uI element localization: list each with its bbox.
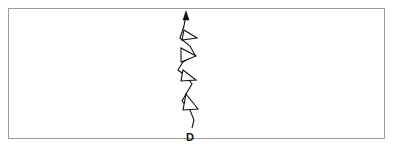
- figure-root: D: [0, 0, 395, 149]
- front-diagram-svg: D: [0, 0, 395, 149]
- front-barb-triangle-3: [181, 70, 196, 81]
- front-line-group: [178, 11, 198, 128]
- front-barb-triangle-1: [182, 30, 197, 40]
- front-barb-triangle-2: [181, 48, 196, 62]
- arrow-head-icon: [183, 11, 189, 20]
- bottom-label-d: D: [186, 131, 194, 143]
- front-barb-triangle-4: [183, 94, 198, 110]
